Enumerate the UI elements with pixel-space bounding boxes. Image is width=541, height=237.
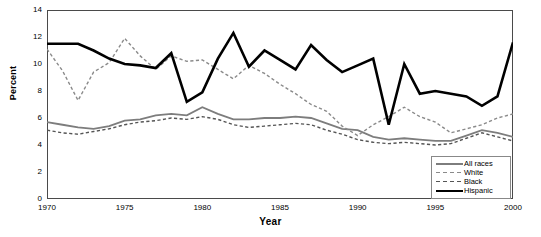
chart-figure: Percent Year 02468101214 197019751980198… xyxy=(0,0,541,237)
legend-line-sample xyxy=(436,190,463,192)
y-tick-label: 2 xyxy=(16,168,42,176)
y-tick-label: 6 xyxy=(16,114,42,122)
legend-swatch-icon xyxy=(435,186,463,195)
x-tick-label: 1970 xyxy=(27,204,67,212)
legend-label: White xyxy=(463,168,483,177)
legend-swatch-icon xyxy=(435,177,463,186)
y-tick-label: 4 xyxy=(16,141,42,149)
x-tick-label: 1995 xyxy=(415,204,455,212)
legend-item: All races xyxy=(435,159,507,168)
legend-label: Black xyxy=(463,177,482,186)
y-tick-label: 12 xyxy=(16,33,42,41)
legend-line-sample xyxy=(436,163,463,165)
legend-label: All races xyxy=(463,159,493,168)
series-line-hispanic xyxy=(47,33,513,125)
x-tick-label: 1975 xyxy=(105,204,145,212)
chart-legend: All racesWhiteBlackHispanic xyxy=(431,156,511,199)
x-tick-label: 1985 xyxy=(260,204,300,212)
x-tick-labels: 1970197519801985199019952000 xyxy=(0,202,541,218)
legend-item: Hispanic xyxy=(435,186,507,195)
legend-swatch-icon xyxy=(435,159,463,168)
legend-label: Hispanic xyxy=(463,186,493,195)
y-tick-label: 14 xyxy=(16,6,42,14)
legend-item: Black xyxy=(435,177,507,186)
legend-swatch-icon xyxy=(435,168,463,177)
series-line-white xyxy=(47,38,513,135)
x-tick-label: 1990 xyxy=(338,204,378,212)
y-tick-label: 8 xyxy=(16,87,42,95)
x-tick-label: 2000 xyxy=(493,204,533,212)
x-tick-label: 1980 xyxy=(182,204,222,212)
legend-line-sample xyxy=(436,181,463,182)
legend-item: White xyxy=(435,168,507,177)
y-tick-label: 10 xyxy=(16,60,42,68)
legend-line-sample xyxy=(436,172,463,173)
